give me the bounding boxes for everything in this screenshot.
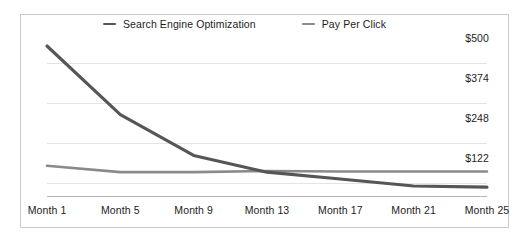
series-layer: [47, 46, 487, 190]
x-axis: Month 1 Month 5 Month 9 Month 13 Month 1…: [20, 204, 509, 222]
chart-legend: Search Engine Optimization Pay Per Click: [0, 14, 489, 34]
x-tick-label: Month 1: [28, 204, 67, 216]
legend-label-seo: Search Engine Optimization: [123, 18, 256, 30]
x-tick-label: Month 13: [245, 204, 290, 216]
legend-item-ppc[interactable]: Pay Per Click: [302, 18, 386, 30]
x-tick-label: Month 9: [174, 204, 213, 216]
series-line-search-engine-optimization: [47, 46, 487, 187]
legend-item-seo[interactable]: Search Engine Optimization: [103, 18, 256, 30]
x-tick-label: Month 21: [391, 204, 436, 216]
plot-area: [47, 46, 487, 190]
x-tick-label: Month 5: [101, 204, 140, 216]
line-swatch-icon: [302, 23, 315, 25]
x-axis-baseline: [47, 196, 487, 197]
x-tick-label: Month 17: [318, 204, 363, 216]
legend-label-ppc: Pay Per Click: [322, 18, 386, 30]
line-swatch-icon: [103, 23, 116, 25]
line-chart: Search Engine Optimization Pay Per Click…: [0, 0, 527, 241]
x-tick-label: Month 25: [465, 204, 510, 216]
